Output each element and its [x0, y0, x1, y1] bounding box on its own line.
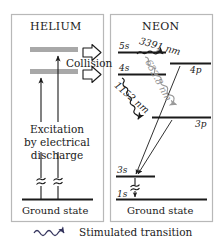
level-label-1s: 1s	[117, 190, 127, 199]
decay-3s-to-1s	[131, 178, 140, 197]
helium-ground-state-label: Ground state	[22, 206, 88, 216]
legend-wave-icon	[34, 231, 64, 236]
level-label-3p: 3p	[195, 120, 207, 129]
level-label-3s: 3s	[117, 166, 127, 175]
level-label-4p: 4p	[190, 66, 202, 75]
excitation-line-3: discharge	[12, 150, 102, 161]
helium-title: HELIUM	[30, 21, 82, 32]
excitation-line-1: Excitation	[12, 124, 102, 135]
neon-ground-state-label: Ground state	[127, 206, 193, 216]
neon-title: NEON	[142, 21, 180, 32]
energy-level-diagram: HELIUM NEON Collision 5s 4s 4p 3p 3s 1s …	[0, 0, 224, 246]
legend-label: Stimulated transition	[79, 227, 192, 238]
helium-level-lower	[30, 69, 78, 74]
level-label-4s: 4s	[119, 64, 129, 73]
level-label-5s: 5s	[119, 42, 129, 51]
helium-level-upper	[30, 47, 78, 52]
excitation-line-2: by electrical	[12, 137, 102, 148]
collision-label: Collision	[66, 58, 112, 69]
